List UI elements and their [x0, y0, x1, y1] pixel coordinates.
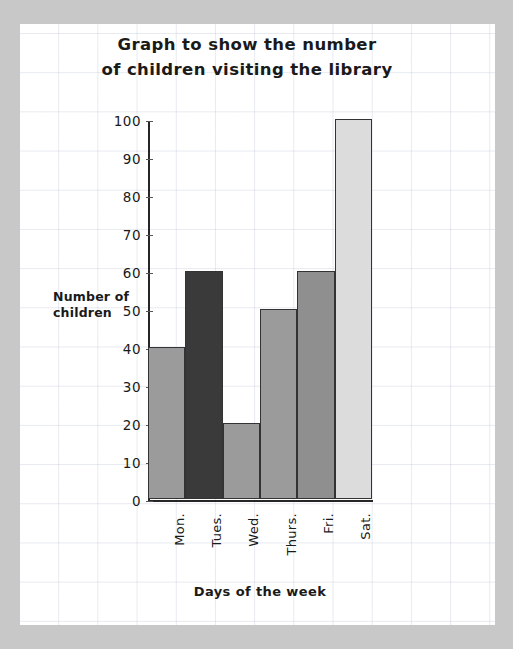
- y-tick-label-50: 50: [123, 303, 141, 319]
- y-tick-label-10: 10: [123, 455, 141, 471]
- y-tick-70: [146, 235, 153, 236]
- x-tick-label-thurs: Thurs.: [284, 513, 299, 555]
- y-tick-80: [146, 197, 153, 198]
- chart-title: Graph to show the number of children vis…: [82, 32, 412, 82]
- x-axis-line: [148, 500, 373, 502]
- bar-wed: [223, 423, 260, 499]
- y-tick-label-20: 20: [123, 417, 141, 433]
- y-tick-label-90: 90: [123, 151, 141, 167]
- y-tick-label-30: 30: [123, 379, 141, 395]
- bar-tues: [185, 271, 222, 499]
- bar-mon: [148, 347, 185, 499]
- y-tick-0: [146, 501, 153, 502]
- x-tick-label-sat: Sat.: [358, 513, 373, 540]
- bar-fri: [297, 271, 334, 499]
- y-tick-label-80: 80: [123, 189, 141, 205]
- x-tick-label-tues: Tues.: [209, 513, 224, 548]
- plot-area: 0102030405060708090100 Mon.Tues.Wed.Thur…: [148, 121, 372, 501]
- y-tick-60: [146, 273, 153, 274]
- y-tick-label-100: 100: [114, 113, 141, 129]
- x-tick-label-mon: Mon.: [172, 513, 187, 546]
- bar-sat: [335, 119, 372, 499]
- x-tick-label-fri: Fri.: [321, 513, 336, 534]
- y-tick-90: [146, 159, 153, 160]
- bar-thurs: [260, 309, 297, 499]
- y-tick-label-60: 60: [123, 265, 141, 281]
- x-tick-label-wed: Wed.: [246, 513, 261, 547]
- y-tick-label-40: 40: [123, 341, 141, 357]
- x-axis-title: Days of the week: [148, 584, 372, 599]
- y-tick-label-0: 0: [132, 493, 141, 509]
- y-tick-label-70: 70: [123, 227, 141, 243]
- chart-page: Graph to show the number of children vis…: [20, 24, 495, 625]
- y-tick-50: [146, 311, 153, 312]
- y-tick-100: [146, 121, 153, 122]
